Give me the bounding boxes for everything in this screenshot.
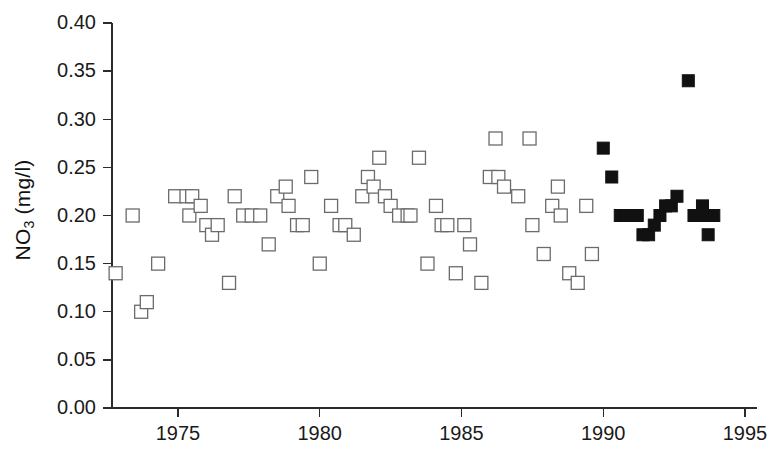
- data-point-open: [404, 209, 417, 222]
- x-tick-label: 1990: [581, 422, 626, 444]
- data-point-open: [412, 151, 425, 164]
- data-point-open: [262, 238, 275, 251]
- data-point-open: [449, 267, 462, 280]
- data-point-open: [512, 190, 525, 203]
- x-tick-group: 19751980198519901995: [156, 408, 768, 444]
- data-point-filled: [606, 171, 618, 183]
- data-point-open: [551, 180, 564, 193]
- data-point-open: [429, 199, 442, 212]
- data-point-open: [279, 180, 292, 193]
- y-tick-label: 0.20: [57, 204, 96, 226]
- y-tick-label: 0.40: [57, 11, 96, 33]
- data-point-filled: [702, 229, 714, 241]
- x-tick-label: 1995: [723, 422, 768, 444]
- data-point-open: [313, 257, 326, 270]
- data-point-open: [223, 276, 236, 289]
- data-point-open: [571, 276, 584, 289]
- data-point-open: [254, 209, 267, 222]
- data-point-open: [228, 190, 241, 203]
- scatter-plot: 0.000.050.100.150.200.250.300.350.40 197…: [0, 0, 775, 468]
- data-point-open: [305, 171, 318, 184]
- y-tick-group: 0.000.050.100.150.200.250.300.350.40: [57, 11, 112, 418]
- data-point-open: [126, 209, 139, 222]
- data-point-open: [296, 219, 309, 232]
- data-point-filled: [597, 142, 609, 154]
- data-point-open: [282, 199, 295, 212]
- data-point-open: [211, 219, 224, 232]
- data-point-filled: [708, 210, 720, 222]
- open-square-markers: [109, 132, 598, 318]
- data-point-open: [498, 180, 511, 193]
- y-tick-label: 0.15: [57, 252, 96, 274]
- data-point-filled: [671, 190, 683, 202]
- data-point-open: [585, 248, 598, 261]
- y-tick-label: 0.05: [57, 348, 96, 370]
- data-point-filled: [631, 210, 643, 222]
- data-point-open: [523, 132, 536, 145]
- chart-figure: NO3 (mg/l) 0.000.050.100.150.200.250.300…: [0, 0, 775, 468]
- y-tick-label: 0.30: [57, 108, 96, 130]
- x-tick-label: 1975: [156, 422, 201, 444]
- filled-square-markers: [597, 75, 720, 241]
- data-point-open: [489, 132, 502, 145]
- data-point-open: [109, 267, 122, 280]
- y-tick-label: 0.10: [57, 300, 96, 322]
- data-point-open: [194, 199, 207, 212]
- data-point-filled: [682, 75, 694, 87]
- data-point-open: [140, 296, 153, 309]
- data-point-open: [526, 219, 539, 232]
- data-point-open: [537, 248, 550, 261]
- y-tick-label: 0.00: [57, 396, 96, 418]
- x-tick-label: 1980: [298, 422, 343, 444]
- data-point-open: [373, 151, 386, 164]
- data-point-open: [475, 276, 488, 289]
- y-tick-label: 0.35: [57, 59, 96, 81]
- data-point-open: [441, 219, 454, 232]
- data-point-open: [152, 257, 165, 270]
- data-point-open: [554, 209, 567, 222]
- x-tick-label: 1985: [439, 422, 484, 444]
- data-point-open: [464, 238, 477, 251]
- y-tick-label: 0.25: [57, 156, 96, 178]
- data-point-open: [347, 228, 360, 241]
- data-point-open: [325, 199, 338, 212]
- data-point-open: [458, 219, 471, 232]
- data-point-open: [421, 257, 434, 270]
- data-point-open: [580, 199, 593, 212]
